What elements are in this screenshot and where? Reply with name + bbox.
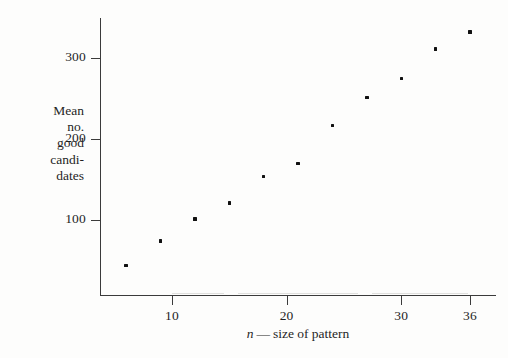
scan-artifact — [238, 293, 358, 294]
scan-artifact — [172, 293, 224, 294]
scan-artifact — [372, 293, 468, 294]
data-point — [468, 30, 471, 33]
data-point — [228, 201, 231, 204]
y-tick-100 — [91, 220, 100, 221]
y-axis-title-line: dates — [6, 168, 84, 184]
x-tick-label-10: 10 — [152, 308, 192, 324]
y-tick-200 — [91, 139, 100, 140]
x-axis-title-dash: — — [253, 326, 273, 341]
x-tick-30 — [401, 296, 402, 305]
y-axis-title-line: candi- — [6, 152, 84, 168]
scatter-plot-area: 100200300 10203036 Meanno.goodcandi-date… — [0, 0, 508, 358]
x-tick-20 — [287, 296, 288, 305]
x-tick-label-20: 20 — [267, 308, 307, 324]
x-axis-title: n—size of pattern — [100, 326, 496, 342]
y-axis-title-line: no. — [6, 119, 84, 135]
data-point — [400, 77, 403, 80]
data-point — [365, 96, 368, 99]
figure-container: 100200300 10203036 Meanno.goodcandi-date… — [0, 0, 508, 358]
data-point — [296, 162, 299, 165]
y-axis-title: Meanno.goodcandi-dates — [6, 103, 84, 184]
x-tick-10 — [172, 296, 173, 305]
data-point — [193, 217, 196, 220]
x-tick-36 — [470, 296, 471, 305]
x-axis-line — [100, 295, 496, 296]
x-tick-label-36: 36 — [450, 308, 490, 324]
y-axis-line — [100, 18, 101, 296]
y-axis-title-line: good — [6, 135, 84, 151]
data-point — [331, 124, 334, 127]
y-tick-label-100: 100 — [44, 211, 86, 227]
x-tick-label-30: 30 — [381, 308, 421, 324]
y-tick-300 — [91, 58, 100, 59]
data-point — [124, 264, 127, 267]
data-point — [262, 175, 265, 178]
data-point — [434, 47, 437, 50]
x-axis-title-rest: size of pattern — [273, 326, 349, 341]
data-point — [159, 239, 162, 242]
y-axis-title-line: Mean — [6, 103, 84, 119]
y-tick-label-300: 300 — [44, 49, 86, 65]
